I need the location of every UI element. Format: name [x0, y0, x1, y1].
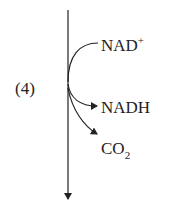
co2-base: CO — [101, 139, 125, 158]
nad-input-curve — [68, 43, 98, 82]
nad-base: NAD — [101, 36, 138, 55]
step-label: (4) — [15, 80, 35, 97]
nad-charge: + — [138, 34, 144, 46]
nadh-text: NADH — [101, 98, 150, 117]
reaction-arrows — [0, 0, 186, 207]
co2-subscript: 2 — [125, 149, 131, 161]
co2-label: CO2 — [101, 140, 130, 161]
nad-plus-label: NAD+ — [101, 35, 144, 54]
nadh-label: NADH — [101, 99, 150, 116]
